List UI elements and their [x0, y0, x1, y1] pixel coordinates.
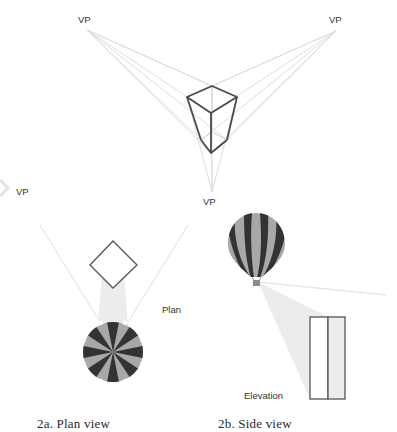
- vp-label-plan-view: VP: [16, 187, 29, 197]
- box-hidden-edges: [201, 86, 227, 140]
- caption-plan-view: 2a. Plan view: [37, 417, 110, 430]
- plan-view-square: [90, 241, 137, 288]
- perspective-diagram: VP VP VP VP Plan Elevation 2a. Plan view…: [0, 0, 397, 432]
- caption-side-view: 2b. Side view: [218, 417, 292, 430]
- elevation-label: Elevation: [244, 391, 283, 401]
- vp-label-bottom: VP: [203, 197, 216, 207]
- plan-label: Plan: [162, 305, 181, 315]
- balloon-side-view: [226, 213, 288, 286]
- balloon-plan-view: [81, 320, 145, 384]
- vp-label-top-right: VP: [329, 15, 342, 25]
- diagram-canvas: [0, 0, 397, 432]
- vp-label-top-left: VP: [78, 15, 91, 25]
- elevation-rectangle: [310, 317, 345, 399]
- edge-chevron-icon: [0, 180, 8, 196]
